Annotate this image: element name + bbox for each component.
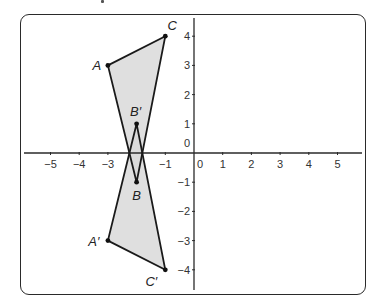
- y-tick-label: −4: [177, 264, 190, 276]
- x-tick-label: −1: [159, 158, 172, 170]
- vertex-b: [134, 180, 139, 185]
- vertex-label-a-prime: A′: [87, 234, 100, 249]
- x-tick-label: −3: [102, 158, 115, 170]
- y-tick-label: −2: [177, 205, 190, 217]
- vertex-label-b-prime: B′: [130, 104, 142, 119]
- y-tick-label: 3: [184, 59, 190, 71]
- y-tick-label: 0: [184, 137, 190, 149]
- x-tick-label: −5: [44, 158, 57, 170]
- y-tick-label: −1: [177, 176, 190, 188]
- x-tick-label: 5: [334, 158, 340, 170]
- vertex-label-a: A: [92, 58, 102, 73]
- x-tick-label: 3: [277, 158, 283, 170]
- x-tick-label: 0: [197, 158, 203, 170]
- vertex-c-prime: [163, 267, 168, 272]
- y-tick-label: 4: [184, 30, 190, 42]
- vertex-b-prime: [134, 121, 139, 126]
- y-tick-label: 2: [184, 89, 190, 101]
- x-tick-label: 4: [306, 158, 312, 170]
- vertex-label-b: B: [132, 188, 141, 203]
- vertex-label-c: C: [168, 18, 178, 33]
- vertex-label-c-prime: C′: [145, 274, 157, 289]
- coordinate-plane: −5−4−3−101234543210−1−2−3−4ABCA′B′C′: [0, 0, 378, 304]
- x-tick-label: −4: [73, 158, 86, 170]
- y-tick-label: 1: [184, 118, 190, 130]
- vertex-a: [106, 63, 111, 68]
- vertex-c: [163, 34, 168, 39]
- x-tick-label: 1: [220, 158, 226, 170]
- x-tick-label: 2: [248, 158, 254, 170]
- y-tick-label: −3: [177, 235, 190, 247]
- vertex-a-prime: [106, 238, 111, 243]
